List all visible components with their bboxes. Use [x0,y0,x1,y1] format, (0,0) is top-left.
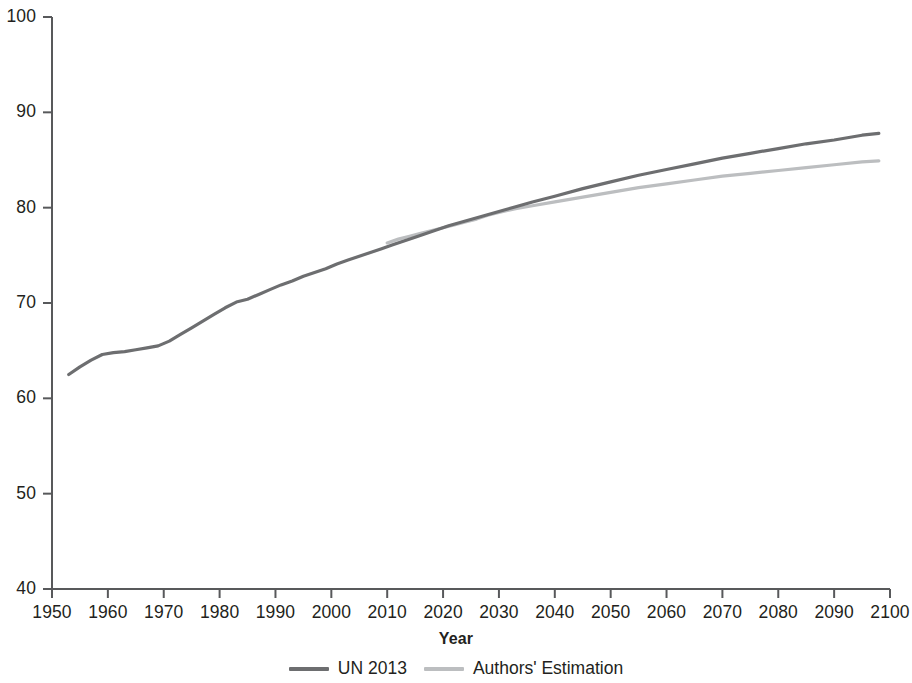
legend-label-authors-estimation: Authors' Estimation [473,658,623,679]
y-axis-ticks [43,17,52,589]
legend-item-authors-estimation: Authors' Estimation [424,658,623,679]
x-axis-ticks [52,589,890,598]
y-tick-label: 60 [0,387,36,408]
legend-label-un-2013: UN 2013 [338,658,407,679]
y-tick-label: 90 [0,101,36,122]
x-tick-label: 2100 [855,602,912,623]
line-chart: 405060708090100 195019601970198019902000… [0,0,912,683]
y-tick-label: 50 [0,483,36,504]
series-line [69,133,879,374]
axis-lines [52,17,890,589]
x-axis-title: Year [0,630,912,648]
plot-area [0,0,912,683]
legend-item-un-2013: UN 2013 [289,658,407,679]
legend-swatch-authors-estimation [424,667,464,671]
y-tick-label: 80 [0,197,36,218]
series-line [387,161,879,243]
data-series-group [69,133,879,374]
chart-legend: UN 2013 Authors' Estimation [0,658,912,679]
y-tick-label: 70 [0,292,36,313]
y-tick-label: 100 [0,6,36,27]
y-tick-label: 40 [0,578,36,599]
legend-swatch-un-2013 [289,667,329,671]
